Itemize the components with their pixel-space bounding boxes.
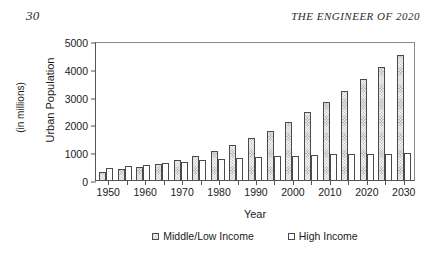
y-axis-tick-label: 4000	[65, 66, 88, 77]
bar	[285, 122, 292, 180]
x-axis-tick	[274, 180, 275, 185]
bar	[211, 151, 218, 180]
bar	[397, 55, 404, 180]
x-axis-tick	[348, 180, 349, 185]
bar	[341, 91, 348, 180]
bar-group	[360, 43, 374, 180]
y-axis-tick	[91, 98, 96, 99]
bar	[143, 165, 150, 180]
bar	[404, 153, 411, 180]
x-axis-tick	[127, 180, 128, 185]
x-axis-tick	[367, 180, 368, 185]
bar	[174, 160, 181, 180]
y-axis-tick-label: 1000	[65, 149, 88, 160]
bar	[255, 157, 262, 180]
page-number: 30	[26, 8, 40, 24]
x-axis-tick	[108, 180, 109, 185]
x-axis-tick	[311, 180, 312, 185]
x-axis-tick	[145, 180, 146, 185]
legend-label: High Income	[299, 230, 358, 242]
bar	[125, 166, 132, 180]
bar	[292, 156, 299, 180]
x-axis-tick-label: 2000	[281, 187, 304, 198]
legend-swatch-icon	[152, 233, 159, 240]
bar-chart-figure: (in millions) Urban Population 010002000…	[0, 34, 442, 265]
y-axis-tick-label: 0	[82, 177, 88, 188]
bar	[136, 167, 143, 180]
bar-group	[229, 43, 243, 180]
bar	[229, 145, 236, 180]
x-axis-tick-label: 2010	[318, 187, 341, 198]
bar	[348, 154, 355, 180]
bar	[367, 154, 374, 180]
bar-group	[267, 43, 281, 180]
bar	[304, 112, 311, 180]
x-axis-tick	[219, 180, 220, 185]
bar	[267, 131, 274, 180]
bar	[218, 159, 225, 180]
bar-group	[136, 43, 150, 180]
plot-area: 010002000300040005000 195019601970198019…	[95, 42, 415, 181]
bar-group	[341, 43, 355, 180]
bar-group	[155, 43, 169, 180]
bar-group	[323, 43, 337, 180]
y-axis-tick-label: 3000	[65, 93, 88, 104]
bar-group	[397, 43, 411, 180]
bar	[118, 169, 125, 180]
bar	[323, 102, 330, 180]
x-axis-tick-label: 1970	[170, 187, 193, 198]
y-axis-tick	[91, 43, 96, 44]
legend-label: Middle/Low Income	[163, 230, 253, 242]
bar	[99, 172, 106, 180]
x-axis-tick	[330, 180, 331, 185]
bar	[236, 158, 243, 180]
bar	[181, 162, 188, 180]
x-axis-tick	[182, 180, 183, 185]
bar	[385, 154, 392, 180]
bar-group	[192, 43, 206, 180]
chart-legend: Middle/Low IncomeHigh Income	[95, 230, 415, 242]
y-axis-tick-label: 2000	[65, 121, 88, 132]
legend-swatch-icon	[288, 233, 295, 240]
x-axis-tick	[293, 180, 294, 185]
bar-group	[118, 43, 132, 180]
x-axis-tick	[256, 180, 257, 185]
x-axis-title: Year	[95, 208, 415, 220]
bar-group	[248, 43, 262, 180]
bar-group	[174, 43, 188, 180]
x-axis-tick	[385, 180, 386, 185]
bar-group	[378, 43, 392, 180]
x-axis-tick	[404, 180, 405, 185]
y-axis-tick	[91, 182, 96, 183]
y-axis-units-label: (in millions)	[15, 63, 26, 153]
bar-group	[285, 43, 299, 180]
bar-group	[304, 43, 318, 180]
bar	[311, 155, 318, 180]
x-axis-tick-label: 2030	[392, 187, 415, 198]
bar-group	[99, 43, 113, 180]
y-axis-tick	[91, 126, 96, 127]
bar	[155, 164, 162, 180]
x-axis-tick	[201, 180, 202, 185]
bar	[274, 156, 281, 180]
x-axis-tick	[164, 180, 165, 185]
bar	[162, 163, 169, 180]
x-axis-tick-label: 1960	[133, 187, 156, 198]
bar	[378, 67, 385, 180]
y-axis-tick-label: 5000	[65, 38, 88, 49]
y-axis-title: Urban Population	[44, 45, 56, 155]
page-header: 30 THE ENGINEER OF 2020	[0, 8, 442, 28]
legend-item: Middle/Low Income	[152, 230, 253, 242]
bar-group	[211, 43, 225, 180]
x-axis-tick-label: 1990	[244, 187, 267, 198]
bar	[106, 168, 113, 181]
x-axis-tick	[238, 180, 239, 185]
y-axis-tick	[91, 70, 96, 71]
x-axis-tick-label: 2020	[355, 187, 378, 198]
legend-item: High Income	[288, 230, 358, 242]
y-axis-tick	[91, 154, 96, 155]
bar	[330, 154, 337, 180]
x-axis-tick-label: 1980	[207, 187, 230, 198]
bar	[360, 79, 367, 180]
bar	[248, 138, 255, 180]
